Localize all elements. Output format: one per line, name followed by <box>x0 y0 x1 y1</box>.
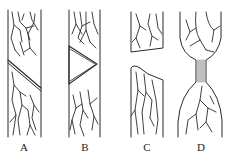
panel-d <box>178 12 222 137</box>
diagram-canvas <box>0 0 228 162</box>
panel-label-d: D <box>191 141 211 153</box>
panel-label-b: B <box>75 141 95 153</box>
panel-a <box>8 10 41 137</box>
panel-b <box>69 10 100 137</box>
panel-label-c: C <box>137 141 157 153</box>
panel-label-a: A <box>14 141 34 153</box>
panel-c <box>131 12 163 137</box>
